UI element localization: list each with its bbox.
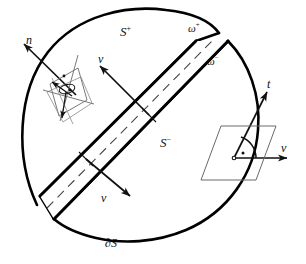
label-omega-minus-sup: − bbox=[215, 54, 219, 61]
angle-region-left bbox=[58, 82, 76, 95]
right-angle-dot-left-2 bbox=[69, 89, 72, 92]
crack-gap-interior bbox=[40, 41, 228, 219]
label-surface-plus-sup: + bbox=[127, 24, 132, 33]
right-angle-dot-left-1 bbox=[63, 75, 66, 78]
tangent-plane-parallelogram-right bbox=[201, 126, 276, 180]
base-point-right bbox=[232, 156, 236, 160]
vector-n-arrow bbox=[24, 44, 76, 95]
label-omega-plus: ω+ bbox=[188, 22, 200, 34]
label-boundary-dS: ∂S bbox=[105, 237, 117, 249]
label-normal-n: n bbox=[26, 34, 32, 46]
label-omega-minus: ω− bbox=[207, 55, 219, 67]
crack-surface-diagram bbox=[0, 0, 306, 264]
boundary-arc-lower-right bbox=[54, 41, 258, 242]
label-v-right: v bbox=[281, 142, 286, 154]
label-v-upper: v bbox=[98, 53, 103, 65]
notch-edge-upper bbox=[196, 33, 219, 41]
vector-t-arrow bbox=[234, 92, 267, 158]
crack-face-omega-plus-top bbox=[40, 41, 196, 196]
label-v-lower: v bbox=[101, 192, 106, 204]
label-surface-plus: S+ bbox=[120, 25, 131, 38]
label-surface-minus: S− bbox=[160, 136, 171, 149]
label-surface-minus-sup: − bbox=[167, 135, 172, 144]
label-omega-plus-sup: + bbox=[196, 21, 200, 28]
label-tangent-t: t bbox=[267, 78, 270, 90]
vector-v-upper-arrow bbox=[100, 66, 149, 115]
crack-face-omega-minus-top bbox=[54, 41, 228, 219]
right-angle-dot-right bbox=[242, 152, 245, 155]
label-omega-plus-base: ω bbox=[188, 22, 196, 34]
label-omega-minus-base: ω bbox=[207, 55, 215, 67]
